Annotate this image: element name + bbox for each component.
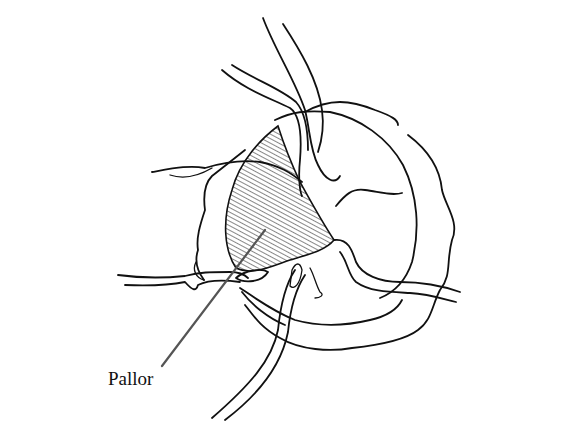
vessel-right-inner <box>336 190 402 206</box>
pallor-leader-line <box>162 230 265 366</box>
vessel-descending-2 <box>225 275 305 420</box>
vessel-small-branch <box>310 268 322 298</box>
optic-disc-diagram <box>0 0 583 444</box>
vessel-trunk-2 <box>283 24 323 152</box>
vessel-oval-loop <box>236 270 268 281</box>
vessel-left-upper-branch <box>170 168 212 177</box>
vessel-lower-right-1 <box>334 240 460 292</box>
pallor-label: Pallor <box>108 368 153 390</box>
pallor-region <box>226 126 334 271</box>
